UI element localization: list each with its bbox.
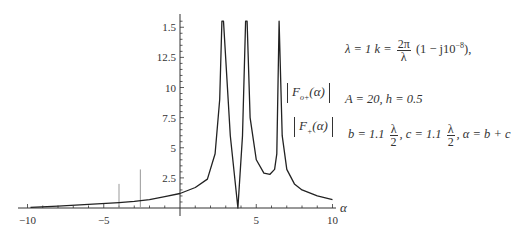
legend-f-arg: (α) (312, 118, 327, 133)
legend-fo-sub: o+ (300, 93, 309, 102)
legend-item-f-plus: F+(α) (294, 117, 333, 137)
eq1-suffix: (1 − j10 (416, 42, 456, 56)
svg-text:1.5: 1.5 (162, 21, 176, 33)
legend-item-fo-plus: Fo+(α) (287, 83, 330, 103)
eq1-fraction: 2πλ (397, 38, 411, 63)
svg-text:5: 5 (171, 142, 177, 154)
x-axis-label: α (340, 200, 348, 215)
eq3-c: , c = 1.1 (400, 127, 442, 141)
eq3-fraction-2: λ2 (447, 123, 455, 148)
svg-text:2.5: 2.5 (162, 172, 176, 184)
eq1-prefix: λ = 1 k = (345, 42, 392, 56)
legend-fo-arg: (α) (309, 84, 324, 99)
svg-text:12.5: 12.5 (157, 51, 177, 63)
eq1-end: ), (464, 42, 471, 56)
abs-bar-right (332, 117, 333, 137)
svg-text:−10: −10 (19, 214, 37, 226)
svg-text:10: 10 (327, 214, 339, 226)
eq1-den: λ (397, 51, 411, 63)
plot-area: −10−5510 2.557.51012.51.5 α (0, 0, 515, 237)
legend-f-main: F (299, 118, 307, 133)
abs-bar-right (329, 83, 330, 103)
svg-text:7.5: 7.5 (162, 112, 176, 124)
data-curve (31, 21, 333, 208)
eq3-fraction-1: λ2 (390, 123, 398, 148)
x-ticks: −10−5510 (19, 204, 339, 226)
eq2-text: A = 20, h = 0.5 (345, 92, 422, 106)
equation-line-1: λ = 1 k = 2πλ (1 − j10−8), (345, 38, 471, 63)
svg-text:−5: −5 (98, 214, 110, 226)
eq3-b: b = 1.1 (348, 127, 385, 141)
eq3-end: , α = b + c (457, 127, 511, 141)
legend-fo-main: F (292, 84, 300, 99)
svg-text:10: 10 (165, 82, 177, 94)
eq3-den2: 2 (447, 136, 455, 148)
eq3-den1: 2 (390, 136, 398, 148)
equation-line-3: b = 1.1 λ2, c = 1.1 λ2, α = b + c (348, 123, 511, 148)
svg-text:5: 5 (254, 214, 260, 226)
equation-line-2: A = 20, h = 0.5 (345, 92, 422, 107)
eq1-exp: −8 (456, 41, 465, 50)
